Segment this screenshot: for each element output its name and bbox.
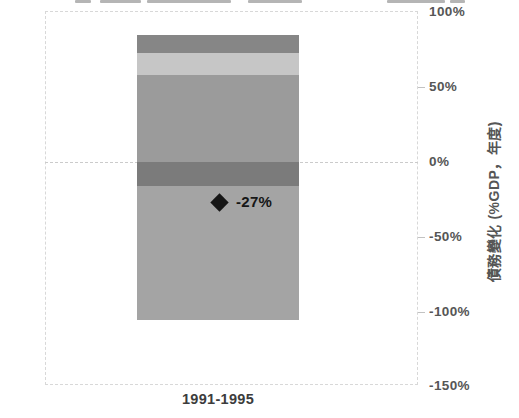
x-category-label: 1991-1995 <box>137 391 299 407</box>
y-tick-label: 50% <box>429 78 457 96</box>
cropped-legend-text-fragment <box>248 0 302 3</box>
bar-segment-light-gray-positive <box>137 53 299 75</box>
cropped-legend-text-fragment <box>75 0 91 3</box>
y-tick-label: -50% <box>429 228 462 246</box>
bar-segment-medium-gray-positive <box>137 75 299 162</box>
y-tick-label: -150% <box>429 377 470 395</box>
bar-segment-dark-gray-positive <box>137 35 299 53</box>
bar-segment-dark-gray-negative <box>137 162 299 186</box>
y-tick-mark <box>418 237 425 238</box>
y-tick-label: -100% <box>429 303 470 321</box>
net-change-value-label: -27% <box>236 192 272 212</box>
y-tick-mark <box>418 87 425 88</box>
cropped-legend-text-fragment <box>100 0 141 3</box>
chart-canvas: 100%50%0%-50%-100%-150% -27% 債務變化 (%GDP，… <box>0 0 519 418</box>
y-tick-label: 100% <box>429 3 465 21</box>
y-tick-mark <box>418 312 425 313</box>
y-tick-label: 0% <box>429 153 449 171</box>
cropped-legend-text-fragment <box>147 0 231 3</box>
y-axis-title: 債務變化 (%GDP，年度) <box>485 77 504 327</box>
